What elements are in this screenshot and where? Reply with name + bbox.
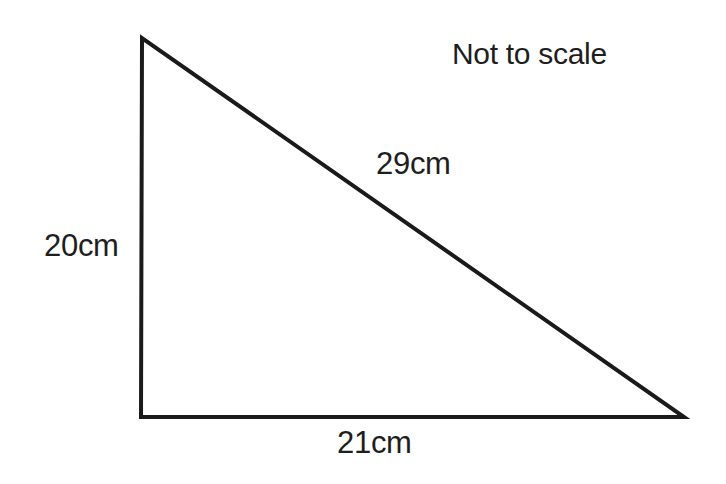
horizontal-side-length-label: 21cm [337,427,412,458]
triangle-shape [141,38,684,417]
not-to-scale-note: Not to scale [452,39,607,69]
vertical-side-length-label: 20cm [44,230,119,261]
hypotenuse-length-label: 29cm [376,148,451,179]
diagram-canvas: Not to scale 29cm 20cm 21cm [0,0,726,484]
